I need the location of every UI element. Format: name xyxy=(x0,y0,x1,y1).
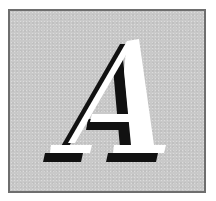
letter-a-glyph xyxy=(10,11,204,191)
canvas xyxy=(0,0,216,201)
letter-frame xyxy=(8,9,206,193)
